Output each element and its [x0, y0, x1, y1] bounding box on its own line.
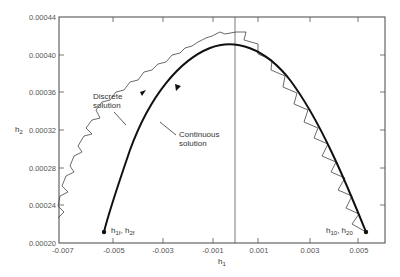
y-tick-label: 0.00040 — [29, 51, 56, 60]
x-tick-label: 0.005 — [350, 246, 369, 255]
start-point-label: h1f, h2f — [111, 226, 135, 236]
continuous-label-line2: solution — [179, 139, 207, 148]
phase-plot: 0.00044 0.00040 0.00036 0.00032 0.00028 … — [0, 0, 400, 277]
plot-frame — [59, 17, 385, 243]
x-tick-label: 0.001 — [250, 246, 269, 255]
x-tick-labels: -0.007 -0.005 -0.003 -0.001 0.001 0.003 … — [52, 246, 368, 255]
discrete-label-line1: Discrete — [93, 92, 123, 101]
discrete-label-line2: solution — [93, 101, 121, 110]
y-tick-label: 0.00044 — [29, 13, 56, 22]
discrete-pointer-line — [114, 112, 126, 125]
x-axis-label: h1 — [218, 257, 226, 267]
x-tick-label: -0.005 — [103, 246, 124, 255]
x-tick-label: -0.007 — [52, 246, 73, 255]
y-tick-labels: 0.00044 0.00040 0.00036 0.00032 0.00028 … — [29, 13, 56, 248]
x-tick-label: -0.001 — [202, 246, 223, 255]
continuous-label-line1: Continuous — [179, 130, 219, 139]
start-point-marker — [102, 230, 106, 234]
y-axis-label: h2 — [15, 125, 23, 135]
continuous-pointer-line — [160, 122, 176, 135]
y-tick-label: 0.00024 — [29, 201, 56, 210]
end-point-marker — [364, 230, 368, 234]
x-tick-label: 0.003 — [301, 246, 320, 255]
discrete-arrow-icon — [140, 90, 146, 96]
end-point-label: h10, h20 — [326, 226, 353, 236]
y-axis-ticks — [59, 55, 385, 205]
y-tick-label: 0.00028 — [29, 164, 56, 173]
y-tick-label: 0.00036 — [29, 88, 56, 97]
y-tick-label: 0.00032 — [29, 126, 56, 135]
continuous-arrow-icon — [175, 84, 181, 91]
x-tick-label: -0.003 — [152, 246, 173, 255]
